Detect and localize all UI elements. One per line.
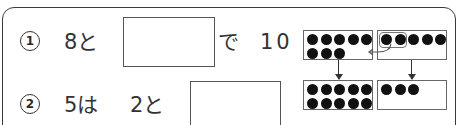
problem-1-text-b: で [218,32,239,53]
problem-1-text-c: 10 [260,32,293,53]
move-arrow-icon [366,42,396,58]
problem-1-number: 1 [20,31,40,51]
problem-2-number: 2 [20,94,40,114]
problem-2-answer-box[interactable] [190,81,281,125]
ten-frame-bottom-right [377,80,447,110]
problem-2-text-b: 2と [130,95,164,116]
down-arrow-icon-right [411,60,412,79]
dots-3 [381,84,447,96]
problem-2-text-a: 5は [64,95,98,116]
down-arrow-icon-left [338,60,339,79]
dots-10 [307,84,373,110]
dots-8 [307,34,373,60]
ten-frame-bottom-left [303,80,373,110]
problem-1-text-a: 8と [64,32,98,53]
ten-frame-top-left [303,30,373,60]
problem-1-answer-box[interactable] [123,17,215,67]
